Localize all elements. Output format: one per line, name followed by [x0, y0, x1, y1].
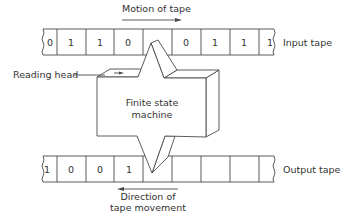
direction-label-line2: tape movement [110, 202, 186, 213]
input-tape-label: Input tape [283, 37, 332, 48]
finite-state-machine: Finite state machine [97, 40, 219, 173]
output-cell: 1 [126, 164, 132, 175]
output-cell: 0 [68, 164, 74, 175]
input-cell: 1 [267, 37, 273, 48]
input-cell: 1 [97, 37, 103, 48]
input-tape-torn-left [42, 29, 44, 55]
output-tape-torn-right [273, 156, 275, 182]
input-cell: 0 [47, 37, 53, 48]
machine-label-line2: machine [132, 109, 173, 120]
output-cell: 0 [97, 164, 103, 175]
machine-label-line1: Finite state [126, 97, 179, 108]
motion-of-tape-label: Motion of tape [122, 3, 191, 14]
input-cell: 0 [183, 37, 189, 48]
machine-side-face [206, 70, 219, 137]
input-tape-torn-right [273, 29, 275, 55]
input-cell: 1 [241, 37, 247, 48]
direction-label-line1: Direction of [120, 191, 176, 202]
output-cell: 1 [44, 164, 50, 175]
machine-front-face [97, 43, 206, 173]
input-cell: 1 [212, 37, 218, 48]
turing-machine-diagram: Motion of tape 0 1 1 0 0 1 1 1 Input tap… [0, 0, 348, 221]
reading-head-label: Reading head [13, 69, 78, 80]
input-cell: 1 [68, 37, 74, 48]
output-tape-label: Output tape [283, 164, 341, 175]
input-cell: 0 [125, 37, 131, 48]
motion-right-arrow-icon [122, 18, 182, 22]
